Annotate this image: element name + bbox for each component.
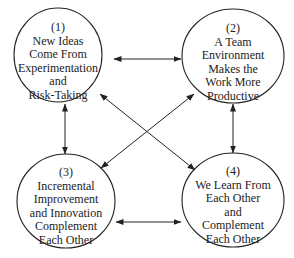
node-1-line: and: [14, 75, 102, 89]
node-2-line: Environment: [188, 49, 278, 63]
node-2-number: (2): [188, 22, 278, 36]
node-4-line: and: [186, 206, 280, 220]
node-1-line: New Ideas: [14, 35, 102, 49]
node-4-line: Each Other: [186, 192, 280, 206]
node-4-line: Each Other: [186, 233, 280, 247]
node-3-line: and Innovation: [21, 207, 111, 221]
node-1-label: (1) New Ideas Come From Experimentation …: [14, 21, 102, 103]
node-2-line: Productive: [188, 90, 278, 104]
node-2-line: Makes the: [188, 63, 278, 77]
node-1-number: (1): [14, 21, 102, 35]
node-1-line: Come From: [14, 48, 102, 62]
node-3-line: Complement: [21, 220, 111, 234]
edge-2-3-arrow: [101, 94, 194, 168]
node-2-line: Work More: [188, 76, 278, 90]
node-3-label: (3) Incremental Improvement and Innovati…: [21, 166, 111, 248]
node-3-line: Incremental: [21, 180, 111, 194]
node-1-line: Experimentation: [14, 62, 102, 76]
node-4-line: We Learn From: [186, 179, 280, 193]
node-2-line: A Team: [188, 36, 278, 50]
node-2-label: (2) A Team Environment Makes the Work Mo…: [188, 22, 278, 104]
node-3-number: (3): [21, 166, 111, 180]
node-4-line: Complement: [186, 219, 280, 233]
node-3-line: Improvement: [21, 193, 111, 207]
node-4-number: (4): [186, 165, 280, 179]
node-3-line: Each Other: [21, 234, 111, 248]
node-4-label: (4) We Learn From Each Other and Complem…: [186, 165, 280, 247]
edge-1-4-arrow: [100, 94, 195, 170]
node-1-line: Risk-Taking: [14, 89, 102, 103]
